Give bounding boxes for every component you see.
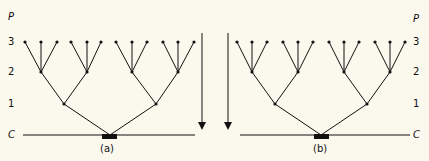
panel-b-tree	[228, 33, 410, 135]
panel-b-level-c: C	[413, 130, 420, 140]
panel-a-tree	[23, 33, 202, 135]
panel-a-caption: (a)	[100, 144, 114, 154]
panel-b-level-1: 1	[413, 99, 419, 109]
figure: P 3 2 1 C (a) P 3 2 1 C (b)	[0, 0, 429, 161]
panel-a-level-2: 2	[8, 67, 14, 77]
panel-b-caption: (b)	[313, 144, 327, 154]
panel-b-axis-title: P	[413, 14, 419, 24]
panel-b-level-3: 3	[413, 37, 419, 47]
panel-b-level-2: 2	[413, 67, 419, 77]
panel-a-nodes	[23, 40, 206, 139]
panel-a-axis-title: P	[8, 12, 14, 22]
panel-a-level-c: C	[8, 130, 15, 140]
panel-b-nodes	[224, 40, 407, 139]
panel-a-level-1: 1	[8, 99, 14, 109]
tree-diagrams	[0, 0, 429, 161]
panel-a-level-3: 3	[8, 37, 14, 47]
